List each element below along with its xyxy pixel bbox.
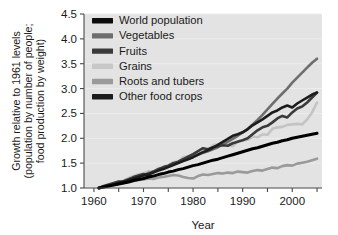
y-tick-label: 2.5 — [61, 107, 77, 119]
y-tick-label: 2.0 — [61, 132, 77, 144]
legend-label-grains: Grains — [119, 60, 152, 72]
x-tick-label: 1990 — [230, 195, 256, 207]
y-tick-label: 1.0 — [61, 182, 77, 194]
x-tick-label: 1980 — [180, 195, 206, 207]
y-tick-label: 1.5 — [61, 157, 77, 169]
x-axis-title: Year — [191, 219, 214, 231]
legend-label-vegetables: Vegetables — [119, 29, 175, 41]
y-tick-label: 4.0 — [61, 33, 77, 45]
legend-swatch-other-food-crops — [92, 94, 113, 99]
y-axis-title-line-2: (population by number of people; — [22, 24, 34, 179]
x-tick-label: 2000 — [279, 195, 305, 207]
growth-relative-to-1961-line-chart: 1.01.52.02.53.03.54.04.5 196019701980199… — [0, 0, 338, 235]
x-tick-label: 1970 — [131, 195, 157, 207]
legend-swatch-grains — [92, 64, 113, 69]
y-tick-label: 4.5 — [61, 8, 77, 20]
legend-label-fruits: Fruits — [119, 45, 147, 57]
chart-figure: 1.01.52.02.53.03.54.04.5 196019701980199… — [0, 0, 338, 235]
y-tick-label: 3.0 — [61, 83, 77, 95]
legend-swatch-vegetables — [92, 33, 113, 38]
legend-label-world-population: World population — [119, 14, 203, 26]
y-axis-title-line-1: Growth relative to 1961 levels — [10, 31, 22, 171]
y-axis-title: Growth relative to 1961 levels (populati… — [10, 24, 46, 179]
legend-label-other-food-crops: Other food crops — [119, 90, 203, 102]
x-tick-label: 1960 — [81, 195, 107, 207]
legend-label-roots-and-tubers: Roots and tubers — [119, 75, 205, 87]
y-axis-title-line-3: food production by weight) — [34, 39, 46, 163]
legend-swatch-roots-and-tubers — [92, 79, 113, 84]
legend-swatch-world-population — [92, 18, 113, 23]
legend-swatch-fruits — [92, 48, 113, 53]
y-tick-label: 3.5 — [61, 58, 77, 70]
